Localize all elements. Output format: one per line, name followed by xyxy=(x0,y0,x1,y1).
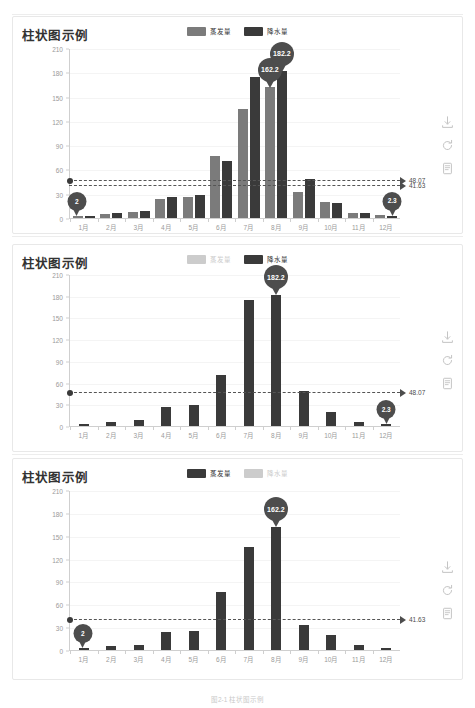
bar-category: 3月 xyxy=(125,275,153,426)
bar[interactable] xyxy=(195,195,205,218)
data-view-icon[interactable] xyxy=(441,162,454,175)
mark-line: 41.63 xyxy=(69,619,400,620)
x-axis-tick-label: 11月 xyxy=(352,654,366,664)
bar[interactable] xyxy=(277,71,287,218)
legend-item-evaporation[interactable]: 蒸发量 xyxy=(187,254,231,264)
bar[interactable] xyxy=(299,391,309,426)
x-axis-tick-mark xyxy=(125,218,126,222)
save-image-icon[interactable] xyxy=(441,561,454,574)
plot-area: 03060901201501802101月2月3月4月5月6月7月8月9月10月… xyxy=(69,49,400,219)
data-view-icon[interactable] xyxy=(441,377,454,390)
bar[interactable] xyxy=(332,203,342,218)
bar[interactable] xyxy=(222,161,232,218)
bar-category: 9月 xyxy=(290,275,318,426)
bar-category: 11月 xyxy=(345,491,373,650)
x-axis-tick-mark xyxy=(318,426,319,430)
bar-group: 1月2月3月4月5月6月7月8月9月10月11月12月 xyxy=(70,491,400,650)
legend-item-precipitation[interactable]: 降水量 xyxy=(244,468,288,478)
bar[interactable] xyxy=(85,216,95,218)
bar-category: 2月 xyxy=(98,491,126,650)
bar[interactable] xyxy=(134,645,144,650)
bar[interactable] xyxy=(326,635,336,650)
bar-category: 8月 xyxy=(263,49,291,218)
bar-category: 3月 xyxy=(125,49,153,218)
figure-caption: 图2-1 柱状图示例 xyxy=(0,694,475,704)
bar[interactable] xyxy=(244,300,254,426)
bar[interactable] xyxy=(271,295,281,426)
data-view-icon[interactable] xyxy=(441,607,454,620)
x-axis-tick-mark xyxy=(345,650,346,654)
bar[interactable] xyxy=(210,156,220,218)
chart-toolbox xyxy=(441,116,454,175)
bar[interactable] xyxy=(326,412,336,426)
bar[interactable] xyxy=(128,212,138,218)
bar[interactable] xyxy=(381,648,391,650)
save-image-icon[interactable] xyxy=(441,116,454,129)
bar[interactable] xyxy=(320,202,330,218)
legend-item-evaporation[interactable]: 蒸发量 xyxy=(187,468,231,478)
bar[interactable] xyxy=(265,87,275,218)
x-axis-tick-mark xyxy=(98,426,99,430)
legend-item-precipitation[interactable]: 降水量 xyxy=(244,26,288,36)
bar[interactable] xyxy=(189,631,199,650)
x-axis-tick-mark xyxy=(373,650,374,654)
legend-item-precipitation[interactable]: 降水量 xyxy=(244,254,288,264)
bar[interactable] xyxy=(73,216,83,218)
bar[interactable] xyxy=(238,109,248,218)
bar[interactable] xyxy=(387,216,397,218)
bar[interactable] xyxy=(381,424,391,426)
bar[interactable] xyxy=(354,422,364,426)
bar[interactable] xyxy=(79,648,89,650)
x-axis-tick-label: 5月 xyxy=(188,430,199,440)
bar[interactable] xyxy=(354,645,364,650)
bar[interactable] xyxy=(299,625,309,650)
x-axis-tick-mark xyxy=(153,218,154,222)
bar[interactable] xyxy=(100,214,110,218)
bar[interactable] xyxy=(155,199,165,218)
bar[interactable] xyxy=(134,420,144,426)
bar[interactable] xyxy=(183,197,193,218)
x-axis-tick-mark xyxy=(263,426,264,430)
bar[interactable] xyxy=(293,192,303,218)
bar-category: 7月 xyxy=(235,491,263,650)
mark-line: 41.63 xyxy=(69,185,400,186)
x-axis-tick-label: 8月 xyxy=(271,222,282,232)
bar[interactable] xyxy=(271,527,281,650)
bar[interactable] xyxy=(244,547,254,650)
bar-category: 7月 xyxy=(235,49,263,218)
bar[interactable] xyxy=(360,213,370,218)
bar-category: 12月 xyxy=(373,491,401,650)
x-axis-tick-label: 7月 xyxy=(243,430,254,440)
legend-item-evaporation[interactable]: 蒸发量 xyxy=(187,26,231,36)
legend-swatch-icon xyxy=(187,469,206,478)
x-axis-tick-mark xyxy=(235,650,236,654)
plot-area: 03060901201501802101月2月3月4月5月6月7月8月9月10月… xyxy=(69,491,400,651)
bar-category: 3月 xyxy=(125,491,153,650)
bar[interactable] xyxy=(79,424,89,426)
save-image-icon[interactable] xyxy=(441,331,454,344)
bar-category: 6月 xyxy=(208,49,236,218)
restore-icon[interactable] xyxy=(441,584,454,597)
x-axis-tick-label: 9月 xyxy=(298,654,309,664)
chart-legend: 蒸发量降水量 xyxy=(13,254,462,264)
restore-icon[interactable] xyxy=(441,139,454,152)
bar[interactable] xyxy=(375,215,385,218)
bar[interactable] xyxy=(216,375,226,426)
x-axis-tick-label: 2月 xyxy=(106,654,117,664)
bar[interactable] xyxy=(167,197,177,218)
bar[interactable] xyxy=(112,213,122,218)
bar[interactable] xyxy=(161,632,171,650)
bar[interactable] xyxy=(250,77,260,218)
bar[interactable] xyxy=(189,405,199,426)
bar[interactable] xyxy=(140,211,150,218)
bar[interactable] xyxy=(106,646,116,650)
restore-icon[interactable] xyxy=(441,354,454,367)
bar[interactable] xyxy=(106,422,116,426)
x-axis-tick-mark xyxy=(318,218,319,222)
bar[interactable] xyxy=(161,407,171,426)
bar[interactable] xyxy=(348,213,358,218)
bar[interactable] xyxy=(216,592,226,650)
x-axis-tick-label: 10月 xyxy=(324,654,338,664)
x-axis-tick-mark xyxy=(98,650,99,654)
x-axis-tick-label: 8月 xyxy=(271,430,282,440)
